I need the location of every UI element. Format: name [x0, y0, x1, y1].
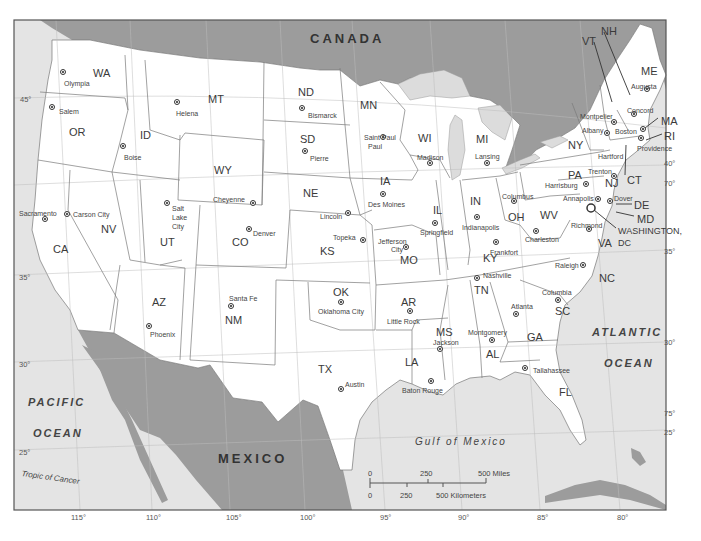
capital-label: Denver [253, 230, 276, 237]
state-label-in: IN [470, 196, 481, 207]
capital-label: Providence [637, 145, 672, 152]
longitude-label: 90° [458, 514, 469, 522]
capital-star-icon [299, 105, 305, 111]
water-label-pacific-ocean: OCEAN [33, 428, 83, 439]
state-label-pa: PA [568, 170, 582, 181]
capital-label: Baton Rouge [402, 387, 443, 394]
capital-label: Columbia [542, 289, 572, 296]
longitude-label: 70° [664, 180, 675, 188]
longitude-label: 75° [664, 410, 675, 418]
state-label-wa: WA [93, 68, 110, 79]
state-label-ma: MA [661, 116, 678, 127]
capital-label: Hartford [598, 153, 623, 160]
capital-star-icon [228, 303, 234, 309]
capital-label: Santa Fe [229, 295, 257, 302]
scale-km-0: 0 [368, 492, 372, 500]
country-label-mexico: MEXICO [218, 452, 287, 465]
state-label-dc: DC [618, 239, 631, 248]
capital-label: Saint Paul [364, 134, 396, 141]
capital-label: Charleston [525, 236, 559, 243]
capital-star-icon [246, 226, 252, 232]
state-label-mo: MO [400, 255, 418, 266]
state-label-ms: MS [436, 327, 453, 338]
state-label-ga: GA [527, 332, 543, 343]
capital-label: Salt [172, 205, 184, 212]
capital-star-icon [338, 386, 344, 392]
state-label-nd: ND [298, 87, 314, 98]
capital-label: Frankfort [490, 249, 518, 256]
capital-label: Albany [582, 127, 603, 134]
state-label-nh: NH [601, 26, 617, 37]
capital-label: Boise [124, 154, 142, 161]
capital-star-icon [555, 297, 561, 303]
capital-label: Springfield [420, 229, 453, 236]
latitude-label: 35° [19, 274, 30, 282]
water-label-atlantic: ATLANTIC [592, 327, 662, 338]
capital-label: Bismarck [308, 112, 337, 119]
capital-star-icon [164, 200, 170, 206]
latitude-label: 25° [19, 449, 30, 457]
capital-star-icon [437, 346, 443, 352]
capital-label: Topeka [333, 234, 356, 241]
capital-label: Lake [172, 214, 187, 221]
country-label-canada: CANADA [310, 32, 384, 45]
capital-label: Salem [59, 108, 79, 115]
state-label-washington: WASHINGTON, [618, 227, 682, 236]
capital-star-icon [474, 214, 480, 220]
longitude-label: 110° [146, 514, 161, 522]
state-label-mi: MI [476, 134, 488, 145]
capital-label: Atlanta [511, 303, 533, 310]
capital-star-icon [407, 308, 413, 314]
capital-star-icon [360, 237, 366, 243]
water-label-atlantic-ocean: OCEAN [604, 358, 654, 369]
capital-label: Pierre [310, 155, 329, 162]
state-label-id: ID [140, 130, 151, 141]
state-label-wi: WI [418, 133, 431, 144]
capital-label: Trenton [588, 168, 612, 175]
latitude-label: 45° [20, 96, 31, 104]
capital-label: Paul [368, 143, 382, 150]
state-label-md: MD [637, 214, 654, 225]
capital-label: Oklahoma City [318, 308, 364, 315]
capital-label: Carson City [73, 211, 110, 218]
longitude-label: 95° [380, 514, 391, 522]
state-label-va: VA [598, 238, 612, 249]
capital-label: Sacramento [19, 210, 57, 217]
state-label-ct: CT [627, 175, 642, 186]
capital-star-icon [432, 220, 438, 226]
capital-star-icon [533, 228, 539, 234]
capital-label: Cheyenne [213, 196, 245, 203]
us-map [0, 0, 701, 541]
state-label-wy: WY [214, 165, 232, 176]
capital-label: Tallahassee [533, 367, 570, 374]
capital-star-icon [338, 299, 344, 305]
state-label-de: DE [634, 200, 649, 211]
capital-label: Raleigh [555, 262, 579, 269]
state-label-nj: NJ [605, 178, 618, 189]
capital-star-icon [60, 69, 66, 75]
state-label-wv: WV [540, 210, 558, 221]
capital-star-icon [640, 126, 646, 132]
capital-star-icon [513, 311, 519, 317]
capital-star-icon [638, 135, 644, 141]
state-label-fl: FL [559, 387, 572, 398]
state-label-tn: TN [474, 285, 489, 296]
capital-star-icon [474, 275, 480, 281]
capital-star-icon [380, 191, 386, 197]
state-label-co: CO [232, 237, 249, 248]
state-label-la: LA [405, 357, 418, 368]
scale-miles-250: 250 [420, 470, 433, 478]
state-label-nc: NC [599, 273, 615, 284]
longitude-label: 100° [300, 514, 316, 522]
state-label-or: OR [69, 127, 86, 138]
capital-star-icon [64, 211, 70, 217]
capital-star-icon [428, 378, 434, 384]
capital-label: Jefferson [378, 238, 407, 245]
capital-star-icon [302, 148, 308, 154]
state-label-al: AL [486, 349, 499, 360]
state-label-ar: AR [401, 297, 416, 308]
capital-label: Richmond [571, 222, 603, 229]
capital-label: Madison [417, 154, 443, 161]
capital-star-icon [607, 198, 613, 204]
scale-miles-0: 0 [368, 470, 372, 478]
